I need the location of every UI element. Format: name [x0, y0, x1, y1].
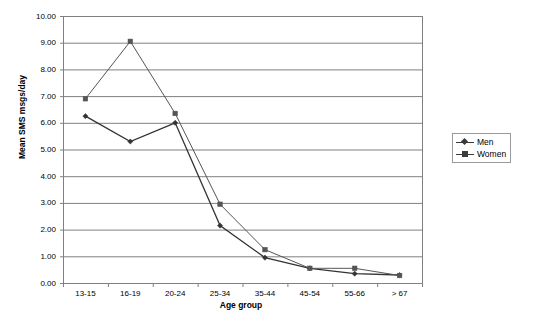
data-point-marker-women	[263, 247, 268, 252]
series-line-men	[85, 116, 399, 275]
data-point-marker-women	[173, 111, 178, 116]
chart-legend: Men Women	[452, 133, 511, 163]
legend-label-women: Women	[475, 149, 506, 159]
series-line-women	[85, 41, 399, 275]
chart-container: Mean SMS msgs/day Age group 10.009.008.0…	[0, 0, 546, 321]
legend-marker-diamond-icon	[455, 136, 475, 148]
data-point-marker-men	[352, 271, 357, 276]
data-point-marker-men	[83, 114, 88, 119]
legend-item-men: Men	[455, 136, 506, 148]
data-point-marker-women	[397, 273, 402, 278]
legend-item-women: Women	[455, 148, 506, 160]
data-point-marker-men	[173, 120, 178, 125]
data-point-marker-women	[308, 266, 313, 271]
data-point-marker-women	[128, 39, 133, 44]
data-point-marker-women	[218, 202, 223, 207]
data-point-marker-women	[352, 266, 357, 271]
data-point-marker-men	[128, 139, 133, 144]
legend-marker-square-icon	[455, 148, 475, 160]
legend-label-men: Men	[475, 137, 494, 147]
data-point-marker-women	[83, 96, 88, 101]
